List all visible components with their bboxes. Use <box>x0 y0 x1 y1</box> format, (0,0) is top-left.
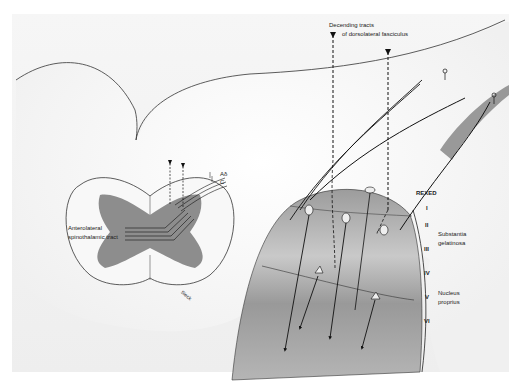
spinal-cord-diagram <box>0 0 519 382</box>
anterolateral-label-1: Anterolateral <box>68 225 102 232</box>
rexed-header: REXED <box>416 190 437 196</box>
substantia-gelatinosa-label-1: Substantia <box>438 231 466 238</box>
lamina-II: II <box>425 222 428 228</box>
descending-tracts-label-2: of dorsolateral fasciculus <box>342 31 408 38</box>
lamina-I: I <box>426 205 428 211</box>
nucleus-proprius-label-1: Nucleus <box>438 290 460 297</box>
lamina-III: III <box>424 246 429 252</box>
lamina-V: V <box>425 294 429 300</box>
fiber-a-delta-label: Aδ <box>220 171 227 178</box>
lamina-VI: VI <box>424 318 430 324</box>
fiber-c-label: C <box>220 179 224 186</box>
anterolateral-label-2: spinothalamic tract <box>68 234 118 241</box>
lamina-IV: IV <box>424 270 430 276</box>
descending-tracts-label-1: Decending tracts <box>329 22 374 29</box>
nucleus-proprius-label-2: proprius <box>438 299 460 306</box>
substantia-gelatinosa-label-2: gelatinosa <box>438 240 465 247</box>
